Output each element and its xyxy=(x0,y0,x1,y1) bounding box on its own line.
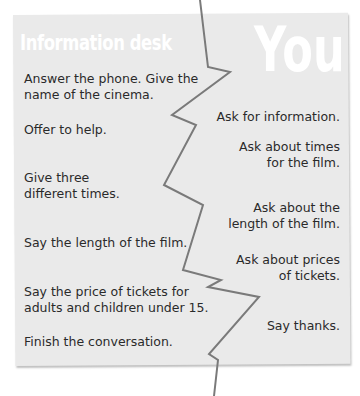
right-step-ask-prices: Ask about prices of tickets. xyxy=(236,252,340,284)
left-step-offer-help: Offer to help. xyxy=(24,122,107,138)
right-step-ask-info: Ask for information. xyxy=(216,109,340,125)
right-step-ask-length: Ask about the length of the film. xyxy=(228,200,340,232)
left-step-finish: Finish the conversation. xyxy=(24,334,173,350)
right-step-say-thanks: Say thanks. xyxy=(267,318,340,334)
left-step-give-times: Give three different times. xyxy=(24,170,120,202)
left-step-ticket-prices: Say the price of tickets for adults and … xyxy=(24,284,208,316)
right-step-ask-times: Ask about times for the film. xyxy=(239,139,340,171)
left-step-film-length: Say the length of the film. xyxy=(24,235,187,251)
left-step-answer-phone: Answer the phone. Give the name of the c… xyxy=(24,71,198,103)
